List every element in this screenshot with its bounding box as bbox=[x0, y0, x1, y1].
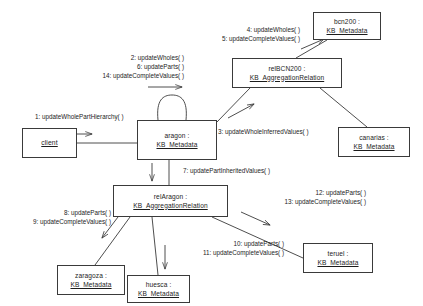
message-label-8: 8: updateParts( ) 9: updateCompleteValue… bbox=[3, 208, 111, 226]
link-relaragon-huesca bbox=[152, 217, 158, 275]
object-relaragon-class: KB_AggregationRelation bbox=[133, 202, 207, 210]
object-relbcn200[interactable]: relBCN200 : KB_AggregationRelation bbox=[232, 58, 342, 88]
object-aragon-name: aragon : bbox=[165, 132, 190, 140]
object-relbcn200-class: KB_AggregationRelation bbox=[250, 74, 324, 82]
object-teruel-class: KB_Metadata bbox=[317, 259, 358, 267]
object-canarias-name: canarias : bbox=[359, 134, 389, 142]
message-label-4: 4: updateWholes( ) 5: updateCompleteValu… bbox=[182, 25, 300, 43]
message-label-2-line-2: 6: updateParts( ) bbox=[34, 62, 184, 71]
object-zaragoza-name: zaragoza : bbox=[75, 272, 107, 280]
message-label-2: 2: updateWholes( ) 6: updateParts( ) 14:… bbox=[34, 53, 184, 80]
message-label-10-line-2: 11: updateCompleteValues( ) bbox=[175, 248, 284, 257]
link-relbcn200-canarias bbox=[320, 88, 367, 127]
object-canarias[interactable]: canarias : KB_Metadata bbox=[338, 127, 410, 157]
message-label-3: 3: updateWholeInferredValues( ) bbox=[218, 127, 309, 136]
message-label-2-line-1: 2: updateWholes( ) bbox=[34, 53, 184, 62]
object-bcn200-name: bcn200 : bbox=[334, 18, 360, 26]
message-label-10: 10: updateParts( ) 11: updateCompleteVal… bbox=[175, 239, 284, 257]
message-label-1-line-1: 1: updateWholePartHierarchy( ) bbox=[35, 112, 124, 121]
message-label-2-line-3: 14: updateCompleteValues( ) bbox=[34, 71, 184, 80]
object-bcn200-class: KB_Metadata bbox=[326, 27, 367, 35]
uml-communication-diagram: client aragon : KB_Metadata relBCN200 : … bbox=[0, 0, 423, 306]
message-label-3-line-1: 3: updateWholeInferredValues( ) bbox=[218, 127, 309, 136]
message-label-8-line-1: 8: updateParts( ) bbox=[3, 208, 111, 217]
object-relaragon[interactable]: relAragon : KB_AggregationRelation bbox=[113, 185, 228, 217]
object-aragon[interactable]: aragon : KB_Metadata bbox=[137, 120, 217, 160]
link-aragon-relbcn200 bbox=[217, 88, 250, 122]
object-bcn200[interactable]: bcn200 : KB_Metadata bbox=[313, 12, 381, 40]
object-client[interactable]: client bbox=[22, 128, 77, 158]
object-huesca-class: KB_Metadata bbox=[138, 290, 179, 298]
object-huesca[interactable]: huesca : KB_Metadata bbox=[127, 275, 190, 303]
object-huesca-name: huesca : bbox=[146, 281, 172, 289]
object-canarias-class: KB_Metadata bbox=[353, 143, 394, 151]
message-label-12-line-1: 12: updateParts( ) bbox=[258, 188, 366, 197]
message-label-12: 12: updateParts( ) 13: updateCompleteVal… bbox=[258, 188, 366, 206]
message-label-7: 7: updatePartInheritedValues( ) bbox=[183, 166, 270, 175]
message-label-10-line-1: 10: updateParts( ) bbox=[175, 239, 284, 248]
object-relbcn200-name: relBCN200 : bbox=[268, 65, 305, 73]
message-label-7-line-1: 7: updatePartInheritedValues( ) bbox=[183, 166, 270, 175]
message-label-1: 1: updateWholePartHierarchy( ) bbox=[35, 112, 124, 121]
object-zaragoza-class: KB_Metadata bbox=[70, 281, 111, 289]
object-teruel[interactable]: teruel : KB_Metadata bbox=[303, 243, 373, 273]
message-label-8-line-2: 9: updateCompleteValues( ) bbox=[3, 217, 111, 226]
object-teruel-name: teruel : bbox=[328, 250, 349, 258]
object-zaragoza[interactable]: zaragoza : KB_Metadata bbox=[57, 265, 125, 295]
message-arrow-12 bbox=[241, 212, 270, 225]
object-aragon-class: KB_Metadata bbox=[156, 141, 197, 149]
object-relaragon-name: relAragon : bbox=[154, 193, 187, 201]
message-label-4-line-2: 5: updateCompleteValues( ) bbox=[182, 34, 300, 43]
message-label-4-line-1: 4: updateWholes( ) bbox=[182, 25, 300, 34]
link-relbcn200-bcn200 bbox=[296, 40, 327, 58]
object-client-label: client bbox=[41, 139, 57, 147]
message-label-12-line-2: 13: updateCompleteValues( ) bbox=[258, 197, 366, 206]
link-aragon-self bbox=[158, 95, 187, 120]
